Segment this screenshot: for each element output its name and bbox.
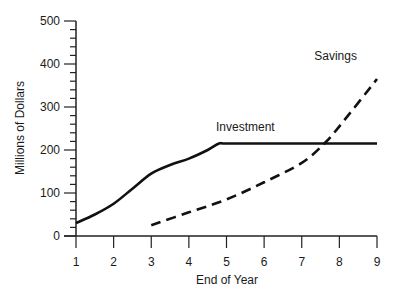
x-tick-label: 7 [298,255,305,269]
investment-line [76,143,377,223]
investment-label: Investment [216,120,275,134]
x-tick-label: 1 [73,255,80,269]
y-tick-label: 0 [53,229,60,243]
x-tick-label: 9 [374,255,381,269]
series-labels: InvestmentSavings [216,49,357,134]
x-tick-label: 8 [336,255,343,269]
y-tick-label: 300 [40,100,60,114]
x-tick-label: 4 [186,255,193,269]
y-tick-label: 400 [40,57,60,71]
x-axis: 123456789 [64,236,381,269]
line-chart: 0100200300400500 123456789 InvestmentSav… [0,0,394,304]
x-axis-label: End of Year [196,273,258,287]
y-tick-label: 200 [40,143,60,157]
x-tick-label: 6 [261,255,268,269]
y-axis: 0100200300400500 [40,14,76,243]
x-tick-label: 2 [110,255,117,269]
series-group [76,79,377,225]
savings-line [151,79,377,225]
x-tick-label: 3 [148,255,155,269]
x-tick-label: 5 [223,255,230,269]
y-tick-label: 500 [40,14,60,28]
y-axis-label: Millions of Dollars [13,81,27,175]
y-tick-label: 100 [40,186,60,200]
savings-label: Savings [314,49,357,63]
